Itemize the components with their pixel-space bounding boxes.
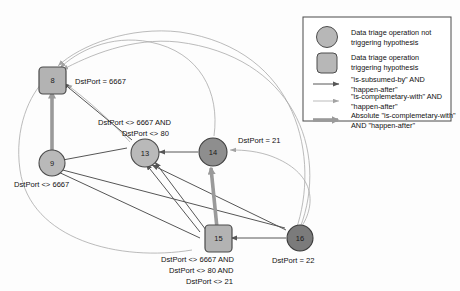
graph-svg: 8 DstPort = 6667 9 DstPort <> 6667 13 Ds… [0,0,460,291]
legend-panel: Data triage operation not triggering hyp… [303,17,451,121]
legend-item-5-line2: AND "happen-after" [351,121,415,130]
legend-circle-icon [317,27,338,48]
node-15-condition-line1: DstPort <> 6667 AND [161,255,235,264]
node-15[interactable]: 15 [205,225,232,252]
legend-square-icon [317,53,337,73]
edge-15-to-13 [146,164,200,232]
node-9-condition: DstPort <> 6667 [14,180,69,189]
node-15-condition-line3: DstPort <> 21 [186,277,233,286]
legend-item-1-line1: Data triage operation not [351,28,431,37]
edge-group-dark [52,83,286,238]
node-13[interactable]: 13 [131,139,159,167]
node-14-label: 14 [209,148,217,157]
legend-item-3-line1: "is-subsumed-by" AND [351,75,425,84]
node-14-condition: DstPort = 21 [238,136,280,145]
edge-16-to-14 [230,150,310,226]
edge-16-to-9 [55,168,285,228]
node-9-label: 9 [50,159,54,168]
node-9[interactable]: 9 [39,150,65,176]
legend-item-4-line2: "happen-after" [351,102,398,111]
node-8-condition: DstPort = 6667 [75,77,126,86]
node-8[interactable]: 8 [39,67,66,94]
legend-item-2-line1: Data triage operation [351,53,419,62]
legend-item-4-line1: "is-complemetary-with" AND [351,92,442,101]
node-14[interactable]: 14 [199,138,227,166]
node-13-condition-line2: DstPort <> 80 [122,129,169,138]
edge-16-to-8-alt [62,41,310,228]
edge-13-to-8-light [66,84,130,142]
node-15-condition-line2: DstPort <> 80 AND [169,266,234,275]
legend-item-5-line1: Absolute "is-complemetary-with" [351,111,456,120]
legend-item-1-line2: triggering hypothesis [351,38,419,47]
node-8-label: 8 [50,76,54,85]
node-13-label: 13 [141,149,149,158]
node-16[interactable]: 16 [287,225,313,251]
node-16-condition: DstPort = 22 [272,256,314,265]
legend-item-2-line2: triggering hypothesis [351,63,419,72]
node-13-condition-line1: DstPort <> 6667 AND [98,118,172,127]
node-15-label: 15 [214,234,222,243]
edge-16-to-8 [58,31,305,230]
edge-15-to-14-absolute [211,168,217,228]
node-16-label: 16 [296,234,304,243]
diagram-canvas: 8 DstPort = 6667 9 DstPort <> 6667 13 Ds… [0,0,460,291]
